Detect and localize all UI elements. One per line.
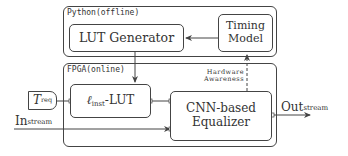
cnn-equalizer-block: CNN-based Equalizer (170, 91, 272, 141)
output-stream-main: Out (281, 101, 303, 115)
timing-model-line2: Model (228, 33, 263, 46)
timing-model-block: Timing Model (218, 14, 273, 52)
lut-generator-label: LUT Generator (79, 31, 174, 45)
output-stream-sub: stream (303, 104, 328, 112)
lut-generator-block: LUT Generator (69, 24, 184, 52)
cnn-equalizer-line2: Equalizer (192, 116, 250, 130)
input-stream-sub: stream (27, 118, 52, 126)
hardware-awareness-line2: Awareness (204, 76, 244, 83)
inst-lut-suffix: -LUT (105, 93, 134, 107)
hardware-awareness-annotation: Hardware Awareness (196, 63, 244, 89)
input-stream-main: In (15, 115, 27, 129)
input-stream-label: Instream (15, 115, 52, 129)
output-stream-label: Outstream (281, 101, 328, 115)
inst-lut-block: ℓinst-LUT (70, 84, 151, 118)
inst-lut-sub: inst (92, 100, 105, 108)
t-req-main: T (33, 94, 41, 108)
t-req-input-block: Treq (28, 91, 57, 110)
cnn-equalizer-line1: CNN-based (186, 102, 256, 116)
t-req-sub: req (41, 97, 52, 104)
